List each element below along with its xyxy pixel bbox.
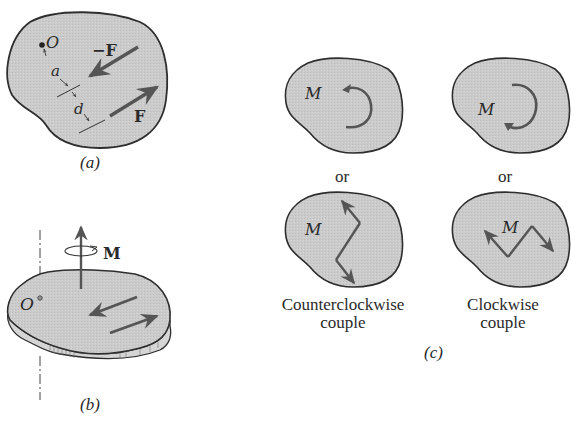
moment-label-b: M bbox=[103, 244, 121, 263]
dist-d-label: d bbox=[74, 100, 84, 118]
cw-circular-body: M bbox=[452, 58, 569, 153]
panel-a: O a d −F F (a) bbox=[7, 12, 167, 172]
point-o-label-b: O bbox=[20, 294, 34, 314]
moment-label-c3: M bbox=[304, 220, 322, 239]
ccw-couple-body: M bbox=[285, 192, 402, 287]
cw-label-line1: Clockwise bbox=[467, 295, 539, 314]
or-label-left: or bbox=[335, 167, 350, 186]
rigid-body-c4 bbox=[452, 192, 569, 287]
or-label-right: or bbox=[498, 167, 513, 186]
moment-label-c4: M bbox=[501, 218, 519, 237]
point-o-marker-b bbox=[38, 296, 42, 300]
force-neg-f-label: −F bbox=[92, 41, 117, 60]
caption-a: (a) bbox=[80, 153, 100, 172]
caption-c: (c) bbox=[424, 343, 443, 362]
caption-b: (b) bbox=[80, 395, 100, 414]
rigid-body-a bbox=[7, 12, 167, 148]
point-o-label: O bbox=[46, 33, 59, 52]
rigid-body-c2 bbox=[452, 58, 569, 153]
panel-b: O M (b) bbox=[8, 227, 171, 414]
ccw-circular-body: M bbox=[285, 58, 402, 153]
cw-label-line2: couple bbox=[480, 313, 525, 332]
moment-label-c2: M bbox=[477, 100, 495, 119]
panel-c: M M or or M M Counterclockwise couple bbox=[282, 58, 570, 362]
ccw-label-line2: couple bbox=[320, 313, 365, 332]
dist-a-label: a bbox=[51, 62, 60, 80]
rigid-body-c3 bbox=[285, 192, 402, 287]
cw-couple-body: M bbox=[452, 192, 569, 287]
rigid-body-c1 bbox=[285, 58, 402, 153]
moment-label-c1: M bbox=[304, 84, 322, 103]
ccw-label-line1: Counterclockwise bbox=[282, 295, 405, 314]
point-o-marker bbox=[39, 42, 45, 48]
force-f-label: F bbox=[134, 107, 146, 126]
couple-diagram: O a d −F F (a) O bbox=[0, 0, 576, 422]
